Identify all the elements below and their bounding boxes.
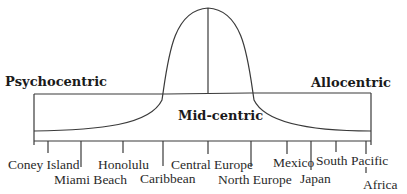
midcentric-label: Mid-centric bbox=[178, 109, 263, 122]
psychographic-diagram: Psychocentric Allocentric Mid-centric Co… bbox=[0, 0, 407, 194]
destination-caribbean: Caribbean bbox=[140, 172, 195, 186]
destination-mexico: Mexico bbox=[273, 156, 314, 170]
destination-africa: Africa bbox=[363, 178, 397, 192]
destination-japan: Japan bbox=[300, 172, 331, 186]
destination-miami-beach: Miami Beach bbox=[54, 173, 127, 187]
psychocentric-label: Psychocentric bbox=[5, 75, 107, 88]
destination-coney-island: Coney Island bbox=[8, 158, 80, 172]
destination-honolulu: Honolulu bbox=[98, 158, 149, 172]
destination-north-europe: North Europe bbox=[218, 173, 292, 187]
allocentric-label: Allocentric bbox=[311, 76, 391, 89]
bell-base bbox=[166, 93, 250, 94]
destination-south-pacific: South Pacific bbox=[316, 154, 388, 168]
destination-central-europe: Central Europe bbox=[171, 158, 253, 172]
